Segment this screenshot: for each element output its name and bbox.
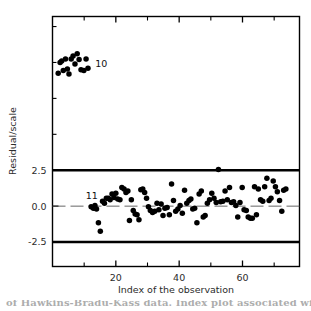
data-point <box>142 190 148 196</box>
data-point <box>216 167 222 173</box>
data-point <box>260 198 266 204</box>
point-group-label: 11 <box>86 190 98 201</box>
data-point <box>239 185 245 191</box>
data-point <box>136 217 142 223</box>
data-point <box>134 212 140 218</box>
data-point <box>74 51 80 57</box>
data-point <box>96 220 102 226</box>
data-point <box>270 178 276 184</box>
data-point <box>94 206 100 212</box>
data-point <box>222 188 228 194</box>
data-point <box>72 61 78 67</box>
data-point <box>237 200 243 206</box>
data-point <box>264 175 270 181</box>
x-tick-label: 40 <box>173 272 185 283</box>
x-tick-label: 60 <box>236 272 248 283</box>
scatter-chart: 2.50.0-2.5204060 1011 Residual/scale Ind… <box>0 0 311 311</box>
data-point <box>277 198 283 204</box>
data-point <box>156 207 162 213</box>
data-point <box>199 188 205 194</box>
data-point <box>102 201 108 207</box>
data-point <box>180 211 186 217</box>
data-point <box>262 184 268 190</box>
data-point <box>66 71 72 77</box>
data-point <box>65 66 71 72</box>
y-axis-title: Residual/scale <box>7 107 18 175</box>
figure-caption: of Hawkins-Bradu-Kass data. Index plot a… <box>6 300 311 308</box>
data-point <box>76 57 82 63</box>
data-point <box>202 213 208 219</box>
data-point <box>256 186 262 192</box>
data-point <box>85 65 91 71</box>
figure-background <box>0 0 311 311</box>
data-point <box>83 56 89 62</box>
y-tick-label: -2.5 <box>28 236 47 247</box>
data-point <box>182 188 188 194</box>
data-point <box>254 212 260 218</box>
data-point <box>244 208 250 214</box>
data-point <box>113 190 119 196</box>
y-tick-label: 2.5 <box>31 165 46 176</box>
data-point <box>194 220 200 226</box>
point-group-label: 10 <box>95 58 107 69</box>
data-point <box>227 185 233 191</box>
data-point <box>209 190 215 196</box>
data-point <box>117 197 123 203</box>
data-point <box>279 208 285 214</box>
data-point <box>164 205 170 211</box>
data-point <box>171 198 177 204</box>
data-point <box>158 201 164 207</box>
data-point <box>63 56 69 62</box>
data-point <box>177 203 183 209</box>
x-tick-label: 20 <box>110 272 122 283</box>
data-point <box>283 186 289 192</box>
data-point <box>268 196 274 202</box>
data-point <box>160 213 166 219</box>
figure-caption-strip: of Hawkins-Bradu-Kass data. Index plot a… <box>0 300 311 311</box>
data-point <box>275 189 281 195</box>
residual-index-plot-figure: 2.50.0-2.5204060 1011 Residual/scale Ind… <box>0 0 311 311</box>
data-point <box>169 181 175 187</box>
data-point <box>125 188 130 194</box>
data-point <box>188 196 194 202</box>
data-point <box>98 229 104 235</box>
data-point <box>55 71 61 77</box>
data-point <box>167 212 173 218</box>
data-point <box>129 197 135 203</box>
data-point <box>192 206 198 212</box>
data-point <box>144 196 150 202</box>
y-tick-label: 0.0 <box>31 201 46 212</box>
x-axis-title: Index of the observation <box>118 284 234 295</box>
data-point <box>127 218 133 224</box>
data-point <box>235 214 241 220</box>
data-point <box>273 184 279 190</box>
